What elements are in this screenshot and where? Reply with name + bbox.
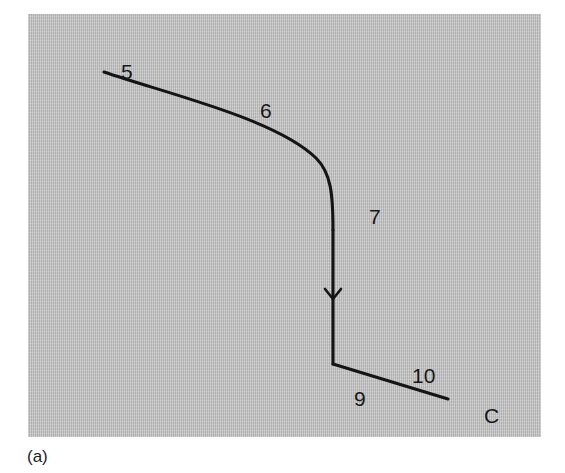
node-label-10: 10 bbox=[412, 365, 435, 386]
curve-segment-5-6-7 bbox=[104, 72, 333, 230]
diagram-drawing bbox=[28, 14, 541, 437]
diagram-panel: 5 6 7 9 10 C bbox=[28, 14, 541, 437]
node-label-7: 7 bbox=[369, 206, 381, 227]
node-label-c: C bbox=[484, 405, 499, 426]
node-label-5: 5 bbox=[121, 61, 133, 82]
figure-caption: (a) bbox=[27, 448, 48, 465]
node-label-9: 9 bbox=[354, 388, 366, 409]
figure-root: 5 6 7 9 10 C (a) bbox=[0, 0, 565, 473]
node-label-6: 6 bbox=[260, 100, 272, 121]
